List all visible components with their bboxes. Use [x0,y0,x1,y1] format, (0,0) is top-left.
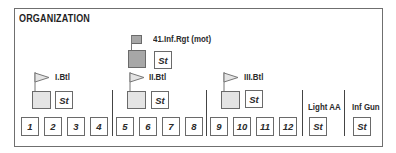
company-box-9: 9 [210,117,228,136]
battalion-1-hq-symbol [32,91,51,109]
battalion-3-label: III.Btl [244,72,263,82]
divider-3 [302,90,303,136]
battalion-1-staff-box: St [55,91,73,109]
inf-gun-staff-box: St [353,117,371,136]
company-box-12: 12 [279,117,297,136]
regiment-staff-box: St [154,51,172,69]
inf-gun-label: Inf Gun [352,102,380,112]
company-box-8: 8 [185,117,203,136]
battalion-3-flag-icon [223,72,241,92]
diagram-title: ORGANIZATION [19,13,90,24]
company-box-3: 3 [67,117,85,136]
light-aa-label: Light AA [308,102,341,112]
company-box-5: 5 [116,117,134,136]
regiment-label: 41.Inf.Rgt (mot) [153,34,211,44]
battalion-1-label: I.Btl [55,72,70,82]
battalion-2-staff-box: St [151,91,169,109]
regiment-flag-icon [131,35,142,44]
company-box-4: 4 [90,117,108,136]
company-box-1: 1 [21,117,39,136]
divider-2 [206,90,207,136]
battalion-3-hq-symbol [221,91,240,109]
company-box-7: 7 [162,117,180,136]
company-box-6: 6 [139,117,157,136]
divider-4 [344,90,345,136]
regiment-hq-symbol [128,50,146,68]
battalion-1-flag-icon [34,72,52,92]
battalion-3-staff-box: St [245,90,263,108]
light-aa-staff-box: St [309,117,327,136]
battalion-2-flag-icon [129,72,147,92]
company-box-2: 2 [44,117,62,136]
battalion-2-hq-symbol [127,91,146,109]
company-box-10: 10 [233,117,251,136]
company-box-11: 11 [256,117,274,136]
divider-1 [112,90,113,136]
regiment-flag-pole [131,35,132,51]
battalion-2-label: II.Btl [149,72,166,82]
